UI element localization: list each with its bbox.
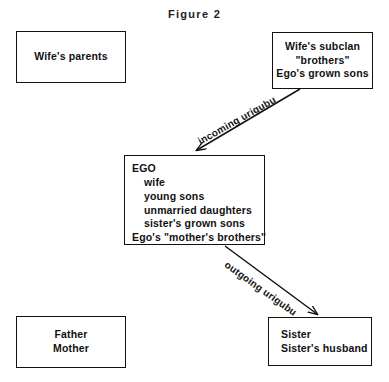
box-wifes-subclan-line-1: Wife's subclan: [285, 40, 360, 54]
box-wifes-parents: Wife's parents: [16, 31, 126, 83]
box-wifes-parents-line-1: Wife's parents: [34, 50, 107, 64]
box-ego-line-6: Ego's "mother's brothers": [132, 231, 266, 245]
figure-diagram: Figure 2 incoming urigubu outgoing urigu…: [0, 0, 389, 382]
box-wifes-subclan-line-2: "brothers": [295, 54, 349, 68]
incoming-urigubu-label: incoming urigubu: [196, 94, 278, 147]
box-ego-line-5: sister's grown sons: [132, 217, 245, 231]
box-sister-line-2: Sister's husband: [281, 342, 368, 356]
box-sister-line-1: Sister: [281, 328, 311, 342]
box-wifes-subclan-line-3: Ego's grown sons: [276, 67, 368, 81]
box-ego-line-2: wife: [132, 176, 165, 190]
figure-title: Figure 2: [0, 8, 389, 20]
box-father-mother: Father Mother: [16, 316, 126, 368]
box-father-mother-line-2: Mother: [53, 342, 89, 356]
box-ego-line-1: EGO: [132, 162, 156, 176]
box-ego-line-4: unmarried daughters: [132, 204, 252, 218]
outgoing-urigubu-label: outgoing urigubu: [223, 259, 299, 318]
box-sister: Sister Sister's husband: [268, 317, 372, 366]
box-ego-line-3: young sons: [132, 190, 204, 204]
box-ego: EGO wife young sons unmarried daughters …: [124, 155, 265, 245]
box-father-mother-line-1: Father: [55, 328, 88, 342]
box-wifes-subclan: Wife's subclan "brothers" Ego's grown so…: [272, 32, 373, 89]
